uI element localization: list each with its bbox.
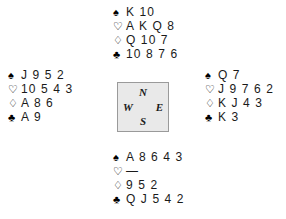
hand-south-clubs-row: ♣ Q J 5 4 2 [113, 192, 185, 206]
hand-east: ♠ Q 7 ♡ J 9 7 6 2 ♢ K J 4 3 ♣ K 3 [205, 68, 274, 124]
hand-east-hearts-row: ♡ J 9 7 6 2 [205, 82, 274, 96]
hand-east-diamonds-row: ♢ K J 4 3 [205, 96, 274, 110]
hand-south-diamonds-row: ♢ 9 5 2 [113, 178, 185, 192]
hand-east-hearts-cards: J 9 7 6 2 [218, 82, 274, 96]
diamond-icon: ♢ [113, 33, 126, 47]
hand-south: ♠ A 8 6 4 3 ♡ — ♢ 9 5 2 ♣ Q J 5 4 2 [113, 150, 185, 206]
diamond-icon: ♢ [205, 96, 218, 110]
spade-icon: ♠ [113, 5, 126, 19]
compass-north-label: N [139, 87, 147, 98]
hand-south-clubs-cards: Q J 5 4 2 [126, 192, 185, 206]
hand-west-spades-cards: J 9 5 2 [21, 68, 65, 82]
hand-east-spades-row: ♠ Q 7 [205, 68, 274, 82]
hand-west-clubs-cards: A 9 [21, 110, 42, 124]
hand-west-diamonds-cards: A 8 6 [21, 96, 54, 110]
club-icon: ♣ [113, 192, 126, 206]
hand-south-spades-cards: A 8 6 4 3 [126, 150, 183, 164]
club-icon: ♣ [113, 47, 126, 61]
hand-south-spades-row: ♠ A 8 6 4 3 [113, 150, 185, 164]
heart-icon: ♡ [113, 19, 126, 33]
club-icon: ♣ [8, 110, 21, 124]
diamond-icon: ♢ [113, 178, 126, 192]
hand-north-clubs-cards: 10 8 7 6 [126, 47, 178, 61]
hand-north-spades-row: ♠ K 10 [113, 5, 178, 19]
hand-east-clubs-cards: K 3 [218, 110, 239, 124]
spade-icon: ♠ [205, 68, 218, 82]
heart-icon: ♡ [113, 164, 126, 178]
hand-south-hearts-cards: — [126, 164, 139, 178]
compass-east-label: E [156, 102, 163, 113]
hand-west-diamonds-row: ♢ A 8 6 [8, 96, 73, 110]
hand-west-hearts-row: ♡ 10 5 4 3 [8, 82, 73, 96]
hand-south-hearts-row: ♡ — [113, 164, 185, 178]
club-icon: ♣ [205, 110, 218, 124]
hand-north-hearts-row: ♡ A K Q 8 [113, 19, 178, 33]
spade-icon: ♠ [8, 68, 21, 82]
diamond-icon: ♢ [8, 96, 21, 110]
compass-west-label: W [123, 102, 133, 113]
heart-icon: ♡ [205, 82, 218, 96]
bridge-deal-diagram: ♠ K 10 ♡ A K Q 8 ♢ Q 10 7 ♣ 10 8 7 6 ♠ J… [0, 0, 286, 219]
hand-north-diamonds-cards: Q 10 7 [126, 33, 169, 47]
hand-west-spades-row: ♠ J 9 5 2 [8, 68, 73, 82]
compass-box: N W E S [117, 82, 169, 132]
hand-east-spades-cards: Q 7 [218, 68, 241, 82]
hand-south-diamonds-cards: 9 5 2 [126, 178, 158, 192]
hand-north: ♠ K 10 ♡ A K Q 8 ♢ Q 10 7 ♣ 10 8 7 6 [113, 5, 178, 61]
hand-east-clubs-row: ♣ K 3 [205, 110, 274, 124]
hand-north-spades-cards: K 10 [126, 5, 155, 19]
hand-north-hearts-cards: A K Q 8 [126, 19, 175, 33]
hand-west: ♠ J 9 5 2 ♡ 10 5 4 3 ♢ A 8 6 ♣ A 9 [8, 68, 73, 124]
compass-south-label: S [140, 116, 146, 127]
hand-east-diamonds-cards: K J 4 3 [218, 96, 263, 110]
hand-west-hearts-cards: 10 5 4 3 [21, 82, 73, 96]
hand-north-clubs-row: ♣ 10 8 7 6 [113, 47, 178, 61]
hand-north-diamonds-row: ♢ Q 10 7 [113, 33, 178, 47]
heart-icon: ♡ [8, 82, 21, 96]
hand-west-clubs-row: ♣ A 9 [8, 110, 73, 124]
spade-icon: ♠ [113, 150, 126, 164]
